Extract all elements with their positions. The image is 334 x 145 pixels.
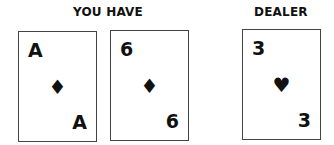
dealer-hand-label: DEALER [254, 5, 308, 19]
card-rank-bottom: 3 [298, 111, 311, 130]
card-rank-top: 3 [252, 39, 265, 58]
player-hand-label: YOU HAVE [73, 5, 143, 19]
card-rank-top: A [28, 41, 43, 60]
diamond-suit-icon: ♦ [141, 76, 159, 96]
card-rank-bottom: 6 [166, 112, 179, 131]
player-card-2: 6 ♦ 6 [110, 30, 189, 141]
card-rank-top: 6 [120, 40, 133, 59]
diamond-suit-icon: ♦ [49, 77, 67, 97]
heart-suit-icon: ♥ [273, 75, 291, 95]
dealer-card-1: 3 ♥ 3 [242, 29, 321, 140]
player-card-1: A ♦ A [18, 31, 97, 142]
card-rank-bottom: A [72, 113, 87, 132]
